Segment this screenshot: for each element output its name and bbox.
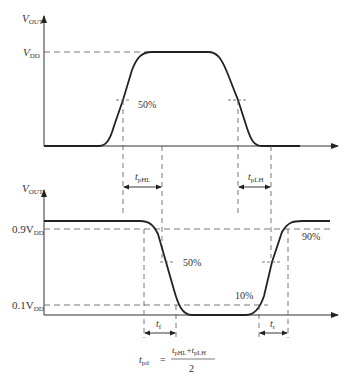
mark-10-label: 10% (235, 290, 253, 301)
formula-denominator: 2 (189, 363, 194, 374)
tplh-label: tpLH (248, 171, 264, 184)
level-09-label: 0.9VDD (12, 223, 44, 237)
mark-90-label: 90% (302, 231, 320, 242)
formula-lhs: tpd (139, 354, 149, 367)
formula-equals: = (160, 354, 166, 365)
mark-50-label: 50% (183, 257, 201, 268)
top-50-label: 50% (138, 99, 156, 110)
tpd-formula: tpd = tpHL+tpLH 2 (139, 345, 215, 374)
bottom-plot: VOUT 0.9VDD 0.1VDD 90% 50% 10% tf tr (12, 182, 338, 338)
tr-label: tr (270, 318, 276, 331)
formula-numerator: tpHL+tpLH (172, 345, 206, 356)
bottom-y-axis-label: VOUT (22, 182, 44, 196)
top-y-axis-label: VOUT (22, 12, 44, 26)
bottom-waveform (44, 221, 330, 315)
level-01-label: 0.1VDD (12, 299, 44, 313)
tf-label: tf (156, 318, 162, 331)
top-waveform (44, 52, 300, 146)
top-vdd-label: VDD (23, 46, 40, 60)
waveform-diagram: VOUT VDD 50% tpHL tpLH VOUT 0.9VDD 0.1VD… (0, 0, 350, 381)
tphl-label: tpHL (135, 171, 151, 184)
